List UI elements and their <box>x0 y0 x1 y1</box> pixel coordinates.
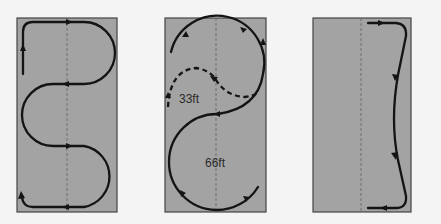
edge-pattern-diagram <box>313 18 411 212</box>
distance-label-33ft: 33ft <box>179 92 200 106</box>
serpentine-pattern-diagram <box>17 18 117 212</box>
distance-label-66ft: 66ft <box>205 156 226 170</box>
figure-s-pattern-diagram: 33ft 66ft <box>165 16 266 212</box>
field-box-3 <box>313 18 411 212</box>
flight-pattern-diagrams: 33ft 66ft <box>0 0 441 224</box>
